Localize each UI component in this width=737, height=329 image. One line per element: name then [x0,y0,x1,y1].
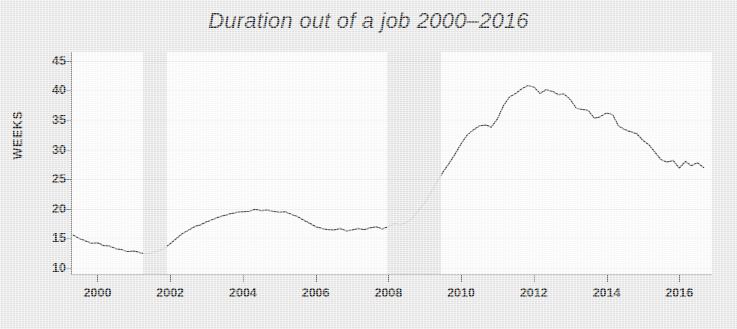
x-tick-mark [679,275,680,282]
y-axis-tick-labels: 1015202530354045 [28,0,66,329]
y-tick-label: 40 [36,84,66,97]
x-tick-mark [97,275,98,282]
y-tick-label: 10 [36,262,66,275]
recession-band [143,52,167,274]
y-tick-label: 20 [36,203,66,216]
x-tick-label: 2012 [504,287,564,300]
x-tick-label: 2004 [213,287,273,300]
y-tick-label: 45 [36,55,66,68]
y-tick-mark [66,150,71,151]
gridline [72,61,712,62]
y-tick-label: 15 [36,232,66,245]
y-tick-mark [66,268,71,269]
gridline [72,150,712,151]
plot-area [72,52,712,274]
x-tick-label: 2010 [431,287,491,300]
y-tick-mark [66,61,71,62]
gridline [72,238,712,239]
y-tick-mark [66,209,71,210]
x-tick-mark [243,275,244,282]
x-tick-label: 2016 [649,287,709,300]
gridline [72,268,712,269]
chart-figure: Duration out of a job 2000–2016 WEEKS 10… [0,0,737,329]
y-tick-mark [66,238,71,239]
gridline [72,179,712,180]
x-tick-label: 2006 [286,287,346,300]
y-tick-label: 30 [36,144,66,157]
y-axis-label: WEEKS [11,95,25,175]
x-tick-label: 2014 [577,287,637,300]
x-tick-mark [170,275,171,282]
y-tick-label: 35 [36,114,66,127]
x-tick-label: 2008 [358,287,418,300]
recession-band [387,52,442,274]
gridline [72,120,712,121]
x-tick-mark [388,275,389,282]
gridline [72,209,712,210]
x-tick-mark [461,275,462,282]
x-tick-mark [607,275,608,282]
chart-title: Duration out of a job 2000–2016 [0,8,737,34]
x-tick-mark [534,275,535,282]
x-tick-label: 2000 [67,287,127,300]
y-tick-mark [66,179,71,180]
gridline [72,90,712,91]
y-tick-label: 25 [36,173,66,186]
y-tick-mark [66,120,71,121]
x-tick-label: 2002 [140,287,200,300]
y-tick-mark [66,90,71,91]
x-tick-mark [316,275,317,282]
x-axis-line [71,274,712,275]
